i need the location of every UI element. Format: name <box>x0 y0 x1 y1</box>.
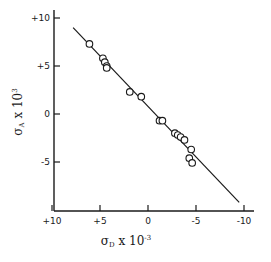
x-axis-label: σD x 10-3 <box>101 234 151 249</box>
x-tick-label: -5 <box>192 216 201 226</box>
fit-line <box>73 28 239 203</box>
x-tick-label: -10 <box>237 216 252 226</box>
data-point-marker <box>126 89 133 96</box>
x-tick-label: 0 <box>145 216 151 226</box>
y-tick-label: +5 <box>37 61 50 71</box>
data-point-marker <box>159 117 166 124</box>
data-point-marker <box>181 137 188 144</box>
x-tick-label: +10 <box>43 216 62 226</box>
regression-line <box>73 28 239 203</box>
data-point-marker <box>188 146 195 153</box>
y-axis-ticks: +10+50-5 <box>31 13 60 167</box>
y-tick-label: +10 <box>31 13 50 23</box>
y-tick-label: 0 <box>44 109 50 119</box>
axes <box>54 10 254 211</box>
y-tick-label: -5 <box>41 157 50 167</box>
data-point-marker <box>189 160 196 167</box>
scatter-chart: +10+50-5-10 +10+50-5 σD x 10-3 σA x 103 <box>0 0 271 262</box>
data-point-marker <box>103 65 110 72</box>
y-axis-label: σA x 103 <box>11 88 26 135</box>
data-point-marker <box>138 93 145 100</box>
x-axis-ticks: +10+50-5-10 <box>43 205 252 226</box>
data-points <box>86 41 195 167</box>
x-tick-label: +5 <box>93 216 106 226</box>
data-point-marker <box>86 41 93 48</box>
